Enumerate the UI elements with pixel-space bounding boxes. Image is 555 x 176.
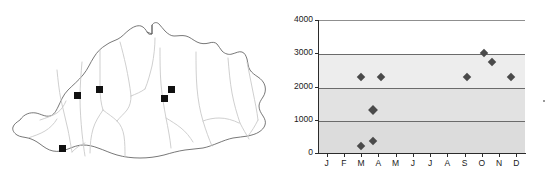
y-tick-label-2000: 2000	[280, 82, 313, 91]
gridline-2000	[318, 88, 525, 89]
y-tick-mark-3000	[315, 53, 318, 54]
map-svg	[0, 0, 280, 176]
x-tick-label-4: M	[388, 159, 404, 168]
x-tick-mark-3	[378, 154, 379, 157]
background-band-3	[318, 121, 525, 154]
gridline-3000	[318, 54, 525, 55]
x-tick-label-10: N	[491, 159, 507, 168]
y-tick-label-3000: 3000	[280, 48, 313, 57]
x-tick-mark-0	[327, 154, 328, 157]
x-tick-mark-9	[482, 154, 483, 157]
x-tick-mark-4	[396, 154, 397, 157]
y-axis-line	[318, 20, 319, 154]
stray-mark-icon	[543, 100, 545, 102]
gridline-1000	[318, 121, 525, 122]
x-tick-label-1: F	[336, 159, 352, 168]
x-tick-label-5: J	[405, 159, 421, 168]
x-tick-mark-11	[516, 154, 517, 157]
y-tick-mark-4000	[315, 20, 318, 21]
figure-container: 01000200030004000 JFMAMJJASOND	[0, 0, 555, 176]
north-notch-path	[147, 25, 152, 34]
country-outline-path	[13, 23, 266, 158]
x-tick-mark-1	[344, 154, 345, 157]
x-tick-mark-6	[430, 154, 431, 157]
map-marker-site-5	[59, 145, 66, 152]
y-tick-mark-0	[315, 153, 318, 154]
map-marker-site-2	[96, 86, 103, 93]
x-tick-label-0: J	[319, 159, 335, 168]
y-tick-label-4000: 4000	[280, 15, 313, 24]
background-band-0	[318, 21, 525, 54]
x-tick-label-9: O	[474, 159, 490, 168]
scatter-chart-panel: 01000200030004000 JFMAMJJASOND	[280, 0, 555, 176]
bhutan-map-panel	[0, 0, 280, 176]
map-marker-site-4	[168, 86, 175, 93]
y-tick-mark-2000	[315, 87, 318, 88]
x-tick-mark-8	[465, 154, 466, 157]
x-tick-label-8: S	[457, 159, 473, 168]
x-tick-mark-7	[447, 154, 448, 157]
y-tick-label-1000: 1000	[280, 115, 313, 124]
map-marker-site-3	[161, 95, 168, 102]
x-tick-mark-5	[413, 154, 414, 157]
y-tick-label-0: 0	[280, 148, 313, 157]
x-axis-line	[318, 153, 526, 154]
x-tick-label-3: A	[370, 159, 386, 168]
x-tick-label-2: M	[353, 159, 369, 168]
x-tick-mark-10	[499, 154, 500, 157]
x-tick-label-6: J	[422, 159, 438, 168]
x-tick-mark-2	[361, 154, 362, 157]
background-band-2	[318, 88, 525, 121]
x-tick-label-7: A	[439, 159, 455, 168]
plot-area	[318, 20, 525, 154]
y-tick-mark-1000	[315, 120, 318, 121]
x-tick-label-11: D	[508, 159, 524, 168]
map-marker-site-1	[74, 92, 81, 99]
